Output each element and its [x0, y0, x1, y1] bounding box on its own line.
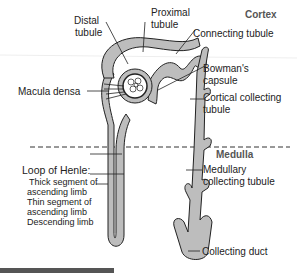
label-thin-segment-2: ascending limb: [27, 207, 87, 217]
label-descending-limb: Descending limb: [27, 217, 94, 227]
label-macula-densa: Macula densa: [18, 86, 81, 97]
label-medullary-collecting-1: Medullary: [203, 164, 246, 175]
region-medulla: Medulla: [216, 149, 254, 160]
label-thick-segment-2: ascending limb: [27, 187, 87, 197]
region-cortex: Cortex: [245, 9, 277, 20]
background-line: [0, 55, 297, 58]
label-proximal-tubule-1: Proximal: [151, 7, 190, 18]
label-bowmans-capsule-1: Bowman's: [203, 63, 249, 74]
label-connecting-tubule: Connecting tubule: [193, 28, 274, 39]
label-distal-tubule-2: tubule: [75, 27, 103, 38]
label-loop-title: Loop of Henle:: [22, 164, 90, 176]
label-thin-segment-1: Thin segment of: [27, 197, 92, 207]
label-distal-tubule-1: Distal: [74, 15, 99, 26]
nephron-diagram: Cortex Medulla Distal tubule Proximal tu…: [0, 0, 297, 273]
label-cortical-collecting-2: tubule: [203, 104, 231, 115]
label-bowmans-capsule-2: capsule: [203, 75, 238, 86]
glomerulus: [123, 74, 147, 98]
label-proximal-tubule-2: tubule: [151, 19, 179, 30]
label-cortical-collecting-1: Cortical collecting: [203, 92, 281, 103]
label-thick-segment-1: Thick segment of: [29, 177, 98, 187]
label-collecting-duct: Collecting duct: [202, 246, 268, 257]
caption-bar: [0, 268, 114, 273]
label-medullary-collecting-2: collecting tubule: [203, 176, 275, 187]
